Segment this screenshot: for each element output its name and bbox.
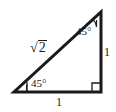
sqrt-radicand-value: 2 [38,40,47,55]
sqrt-radical-glyph: √ [30,40,38,55]
geometry-figure: √2 45° 45° 1 1 [0,0,116,112]
side-length-label-bottom: 1 [56,96,62,108]
angle-label-bottom-left: 45° [31,78,46,89]
angle-label-top: 45° [76,26,91,37]
angle-arc-top-icon [92,19,97,27]
hypotenuse-length-label: √2 [30,40,47,55]
side-length-label-right: 1 [104,46,110,58]
triangle-outline [14,12,101,92]
sqrt-symbol-icon: √2 [30,40,47,55]
